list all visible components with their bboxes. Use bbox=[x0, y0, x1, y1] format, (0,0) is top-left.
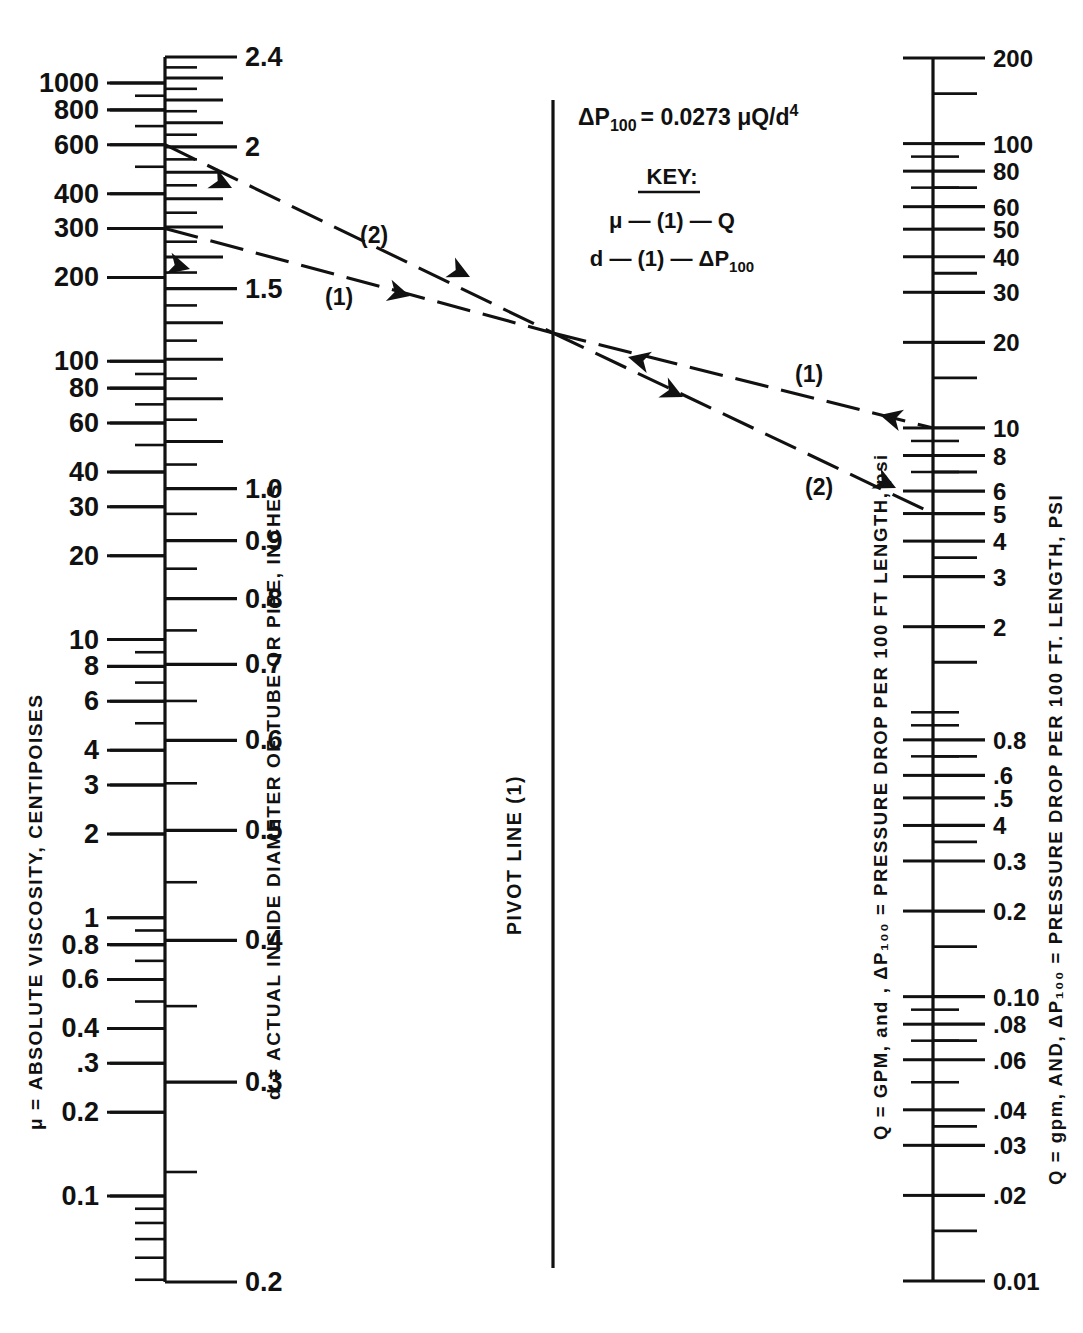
direction-arrowhead bbox=[386, 280, 410, 301]
pressure-tick-label: 0.10 bbox=[993, 984, 1040, 1011]
pressure-tick-label: 4 bbox=[993, 812, 1007, 839]
formula-text: ΔP100= 0.0273 μQ/d4 bbox=[578, 102, 799, 134]
formula-lhs: ΔP bbox=[578, 104, 610, 130]
pressure-tick-label: 0.01 bbox=[993, 1268, 1040, 1295]
pivot-line-label: PIVOT LINE (1) bbox=[503, 775, 525, 935]
pivot-line-group: PIVOT LINE (1) bbox=[503, 100, 553, 1268]
pressure-tick-label: 8 bbox=[993, 443, 1006, 470]
formula-exponent: 4 bbox=[790, 102, 799, 119]
diameter-tick-group bbox=[165, 57, 237, 1282]
pressure-tick-label: .03 bbox=[993, 1132, 1026, 1159]
key-block: KEY: μ — (1) — Q d — (1) — ΔP100 bbox=[590, 164, 754, 275]
construction-line-2-left bbox=[165, 145, 553, 333]
line-label-1-left: (1) bbox=[325, 284, 353, 310]
flow-axis-title: Q = GPM, and , ΔP₁₀₀ = PRESSURE DROP PER… bbox=[870, 453, 891, 1140]
direction-arrowhead bbox=[658, 378, 683, 398]
viscosity-label-group: 1000800600400300200100806040302010864321… bbox=[39, 68, 99, 1211]
pressure-label-group: 200100806050403020108654320.8.6.540.30.2… bbox=[993, 45, 1040, 1295]
pressure-tick-label: .02 bbox=[993, 1182, 1026, 1209]
formula-rhs: = 0.0273 μQ/d bbox=[641, 104, 790, 130]
viscosity-tick-label: 40 bbox=[69, 457, 99, 487]
construction-lines-group bbox=[165, 145, 933, 514]
pressure-tick-label: 50 bbox=[993, 216, 1020, 243]
line-label-2-right: (2) bbox=[805, 474, 833, 500]
flow-tick-group bbox=[903, 58, 933, 1281]
viscosity-tick-label: 800 bbox=[54, 95, 99, 125]
viscosity-tick-label: 10 bbox=[69, 625, 99, 655]
viscosity-tick-label: 6 bbox=[84, 686, 99, 716]
viscosity-tick-label: 8 bbox=[84, 651, 99, 681]
viscosity-tick-label: 0.8 bbox=[61, 930, 99, 960]
viscosity-tick-label: 60 bbox=[69, 408, 99, 438]
key-line-2: d — (1) — ΔP100 bbox=[590, 246, 754, 275]
viscosity-tick-label: .3 bbox=[76, 1048, 99, 1078]
pressure-tick-label: 3 bbox=[993, 564, 1006, 591]
viscosity-axis-title: μ = ABSOLUTE VISCOSITY, CENTIPOISES bbox=[25, 693, 46, 1130]
viscosity-tick-label: 20 bbox=[69, 541, 99, 571]
pressure-tick-label: 20 bbox=[993, 329, 1020, 356]
viscosity-tick-label: 100 bbox=[54, 346, 99, 376]
viscosity-tick-group bbox=[107, 83, 165, 1280]
key-line-2-subscript: 100 bbox=[729, 258, 754, 275]
pressure-tick-label: 2 bbox=[993, 614, 1006, 641]
pressure-tick-label: 30 bbox=[993, 279, 1020, 306]
pressure-tick-label: 5 bbox=[993, 501, 1006, 528]
formula-block: ΔP100= 0.0273 μQ/d4 bbox=[578, 102, 799, 134]
pressure-tick-label: 0.8 bbox=[993, 727, 1026, 754]
pressure-tick-label: .08 bbox=[993, 1011, 1026, 1038]
formula-lhs-subscript: 100 bbox=[610, 117, 637, 134]
viscosity-tick-label: 2 bbox=[84, 819, 99, 849]
diameter-tick-label: 2 bbox=[245, 132, 260, 162]
viscosity-tick-label: 0.4 bbox=[61, 1013, 99, 1043]
viscosity-tick-label: 1 bbox=[84, 903, 99, 933]
pressure-tick-label: .04 bbox=[993, 1097, 1027, 1124]
construction-line-1-left bbox=[165, 228, 553, 333]
diameter-tick-label: 2.4 bbox=[245, 42, 283, 72]
line-label-1-right: (1) bbox=[795, 361, 823, 387]
pressure-tick-label: 0.3 bbox=[993, 848, 1026, 875]
pressure-axis-title: Q = gpm, AND, ΔP₁₀₀ = PRESSURE DROP PER … bbox=[1045, 494, 1066, 1185]
pressure-tick-label: .5 bbox=[993, 785, 1013, 812]
viscosity-tick-label: 80 bbox=[69, 373, 99, 403]
viscosity-tick-label: 0.6 bbox=[61, 964, 99, 994]
nomograph-figure: 1000800600400300200100806040302010864321… bbox=[0, 0, 1083, 1333]
key-line-2-text: d — (1) — ΔP bbox=[590, 246, 729, 271]
construction-line-1-right bbox=[553, 333, 933, 428]
pressure-tick-label: .06 bbox=[993, 1047, 1026, 1074]
pressure-tick-label: 200 bbox=[993, 45, 1033, 72]
diameter-axis-title: d = ACTUAL INSIDE DIAMETER OF TUBE OR PI… bbox=[263, 483, 284, 1100]
pressure-tick-group bbox=[933, 58, 985, 1281]
viscosity-tick-label: 300 bbox=[54, 213, 99, 243]
viscosity-tick-label: 200 bbox=[54, 262, 99, 292]
pressure-tick-label: 0.2 bbox=[993, 898, 1026, 925]
key-line-1: μ — (1) — Q bbox=[609, 208, 735, 233]
viscosity-tick-label: 30 bbox=[69, 492, 99, 522]
diameter-tick-label: 0.2 bbox=[245, 1267, 283, 1297]
viscosity-tick-label: 400 bbox=[54, 179, 99, 209]
direction-arrowhead bbox=[445, 258, 470, 278]
pressure-tick-label: 4 bbox=[993, 528, 1007, 555]
viscosity-tick-label: 4 bbox=[84, 735, 99, 765]
pressure-tick-label: 40 bbox=[993, 244, 1020, 271]
pressure-tick-label: 80 bbox=[993, 158, 1020, 185]
viscosity-tick-label: 0.1 bbox=[61, 1181, 99, 1211]
pressure-tick-label: 10 bbox=[993, 415, 1020, 442]
viscosity-tick-label: 3 bbox=[84, 770, 99, 800]
viscosity-tick-label: 600 bbox=[54, 130, 99, 160]
viscosity-tick-label: 1000 bbox=[39, 68, 99, 98]
direction-arrowhead bbox=[628, 352, 652, 373]
diameter-tick-label: 1.5 bbox=[245, 274, 283, 304]
viscosity-tick-label: 0.2 bbox=[61, 1097, 99, 1127]
key-title: KEY: bbox=[647, 164, 698, 189]
line-label-2-left: (2) bbox=[360, 222, 388, 248]
pressure-tick-label: 100 bbox=[993, 131, 1033, 158]
